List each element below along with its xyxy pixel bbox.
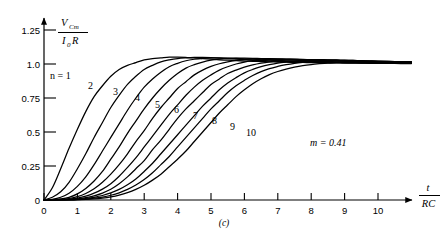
x-tick-label-0: 0 (41, 205, 46, 216)
x-tick-label-6: 6 (242, 205, 247, 216)
curve-label-8: 8 (212, 115, 217, 126)
x-tick-label-8: 8 (309, 205, 314, 216)
annotation-m: m = 0.41 (310, 137, 346, 148)
x-tick-label-1: 1 (75, 205, 80, 216)
annotation-m-text: m = 0.41 (310, 137, 346, 148)
curve-label-10: 10 (246, 127, 256, 138)
y-axis-tick-labels: 1.25 1.0 0.75 0.5 0.25 0 (22, 25, 41, 206)
x-axis-title-numerator: t (427, 182, 431, 193)
y-tick-label-025: 0.25 (22, 161, 41, 172)
x-tick-label-2: 2 (108, 205, 113, 216)
y-axis-title-numerator-sub: Cm (69, 23, 79, 31)
curve-label-n-prefix: n = 1 (50, 70, 71, 81)
y-tick-label-075: 0.75 (22, 93, 41, 104)
curve-n-8 (44, 60, 411, 200)
y-tick-label-000: 0 (35, 195, 40, 206)
x-axis-title: t RC (419, 182, 440, 209)
curve-group (44, 57, 411, 200)
y-axis-title-denominator: I (61, 35, 66, 46)
x-axis-tick-labels: 0 1 2 3 4 5 6 7 8 9 10 (41, 205, 383, 216)
y-axis-title-denominator-sub: 0 (67, 41, 71, 49)
curve-label-5: 5 (155, 99, 160, 110)
x-tick-label-3: 3 (142, 205, 147, 216)
x-tick-label-10: 10 (373, 205, 384, 216)
curve-label-6: 6 (174, 104, 179, 115)
curve-labels: n = 1 2 3 4 5 6 7 8 9 10 (50, 70, 256, 138)
curve-label-4: 4 (135, 92, 140, 103)
y-axis-title-denominator-tail: R (71, 35, 79, 46)
y-axis-title: V Cm I 0 R (58, 17, 88, 49)
y-tick-label-100: 1.0 (27, 59, 40, 70)
chart-svg: 1.25 1.0 0.75 0.5 0.25 0 0 1 2 3 4 (0, 0, 448, 240)
curve-n-2 (44, 57, 411, 200)
x-axis-title-denominator: RC (421, 198, 436, 209)
y-tick-label-125: 1.25 (22, 25, 41, 36)
curve-label-9: 9 (230, 121, 235, 132)
x-tick-label-5: 5 (208, 205, 213, 216)
figure-number-label: (c) (219, 218, 230, 229)
x-tick-label-9: 9 (342, 205, 347, 216)
y-axis-title-numerator: V (61, 17, 69, 28)
curve-n-7 (44, 60, 411, 200)
figure-container: 1.25 1.0 0.75 0.5 0.25 0 0 1 2 3 4 (0, 0, 448, 240)
x-tick-label-7: 7 (275, 205, 280, 216)
y-axis-ticks (44, 30, 56, 166)
curve-label-2: 2 (88, 80, 93, 91)
x-tick-label-4: 4 (175, 205, 180, 216)
curve-n-9 (44, 61, 411, 200)
y-tick-label-050: 0.5 (27, 127, 40, 138)
curve-label-7: 7 (193, 110, 198, 121)
curve-label-3: 3 (113, 86, 118, 97)
